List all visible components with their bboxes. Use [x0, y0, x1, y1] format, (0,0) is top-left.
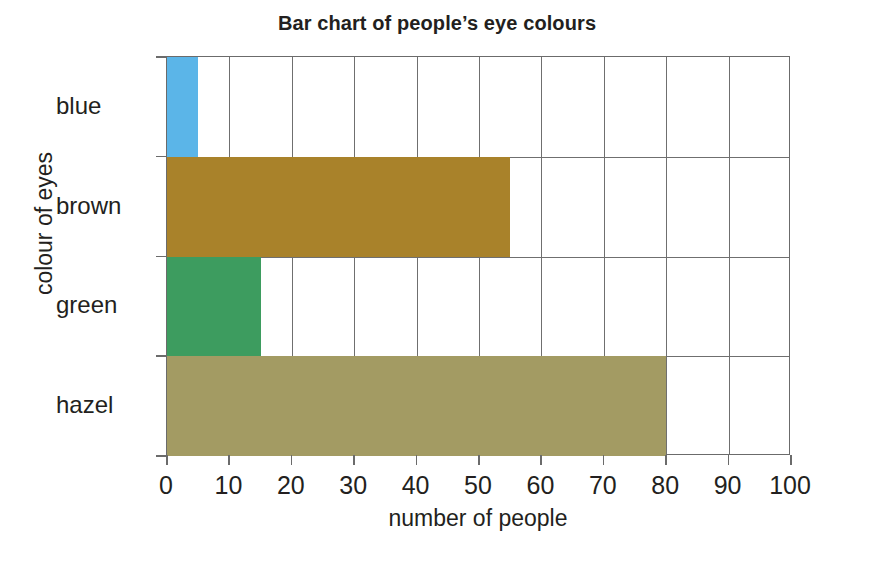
- x-tick-label: 70: [568, 470, 638, 500]
- bar-row: [167, 257, 791, 357]
- chart-title: Bar chart of people’s eye colours: [0, 12, 874, 35]
- x-tick-mark: [665, 455, 667, 465]
- x-tick-label: 20: [256, 470, 326, 500]
- x-tick-mark: [291, 455, 293, 465]
- x-tick-mark: [416, 455, 418, 465]
- x-tick-mark: [603, 455, 605, 465]
- plot-area: [166, 56, 790, 455]
- category-label-hazel: hazel: [56, 391, 160, 419]
- category-label-green: green: [56, 291, 160, 319]
- bar-green[interactable]: [167, 257, 261, 357]
- x-tick-label: 90: [693, 470, 763, 500]
- x-tick-label: 10: [193, 470, 263, 500]
- x-tick-label: 60: [505, 470, 575, 500]
- x-tick-label: 0: [131, 470, 201, 500]
- x-tick-mark: [228, 455, 230, 465]
- category-label-brown: brown: [56, 192, 160, 220]
- bar-hazel[interactable]: [167, 356, 666, 456]
- x-tick-label: 30: [318, 470, 388, 500]
- bar-chart-figure: Bar chart of people’s eye colours number…: [0, 0, 874, 563]
- x-axis-label: number of people: [166, 505, 790, 532]
- x-tick-mark: [478, 455, 480, 465]
- x-tick-mark: [540, 455, 542, 465]
- x-tick-mark: [790, 455, 792, 465]
- bar-blue[interactable]: [167, 57, 198, 157]
- x-tick-label: 40: [381, 470, 451, 500]
- y-tick-mark: [156, 156, 166, 158]
- x-tick-label: 50: [443, 470, 513, 500]
- bar-brown[interactable]: [167, 157, 510, 257]
- category-label-blue: blue: [56, 92, 160, 120]
- bar-row: [167, 157, 791, 257]
- y-axis-label: colour of eyes: [31, 94, 58, 354]
- y-tick-mark: [156, 56, 166, 58]
- y-tick-mark: [156, 455, 166, 457]
- bar-row: [167, 57, 791, 157]
- x-tick-mark: [728, 455, 730, 465]
- x-tick-label: 80: [630, 470, 700, 500]
- x-tick-label: 100: [755, 470, 825, 500]
- bar-row: [167, 356, 791, 456]
- y-tick-mark: [156, 355, 166, 357]
- x-tick-mark: [353, 455, 355, 465]
- y-tick-mark: [156, 256, 166, 258]
- x-tick-mark: [166, 455, 168, 465]
